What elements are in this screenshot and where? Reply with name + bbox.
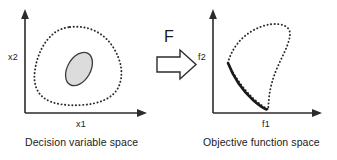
objective-region-dotted-lower [228,63,268,109]
mapping-operator-arrow [157,50,196,79]
left-y-axis-label: x2 [8,52,18,62]
right-x-axis-arrowhead [312,109,322,117]
figure-root: x2 x1 f2 f1 F Decision variable space Ob… [0,0,337,160]
right-panel-caption: Objective function space [203,136,320,148]
left-x-axis-label: x1 [76,119,86,129]
right-panel-axes [209,9,322,117]
pareto-set-ellipse [60,48,98,91]
objective-space-feasible-region [228,24,290,109]
right-block-arrow-icon [157,50,196,79]
pareto-optimal-front [228,63,267,110]
left-y-axis-arrowhead [21,9,29,19]
right-y-axis-arrowhead [209,9,217,19]
objective-region-dotted-upper [228,24,290,109]
right-y-axis-label: f2 [198,52,206,62]
pareto-optimal-set [60,48,98,91]
mapping-operator-label: F [164,28,174,46]
pareto-front-curve [228,63,267,110]
left-x-axis-arrowhead [137,109,147,117]
left-panel-caption: Decision variable space [25,136,138,148]
right-x-axis-label: f1 [262,119,270,129]
